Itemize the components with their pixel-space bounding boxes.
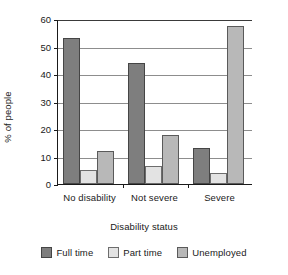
bar[interactable] [145,166,162,184]
bar-group [123,20,188,184]
y-axis-tick-0 [54,185,58,186]
legend-item[interactable]: Full time [41,247,93,258]
legend-label: Part time [123,247,162,258]
x-axis-separator-tick [123,184,124,188]
x-axis-separator-tick [188,184,189,188]
y-axis-tick-label-30: 30 [40,98,51,108]
bar-chart: % of people 0102030405060 No disabilityN… [0,0,288,275]
bar[interactable] [162,135,179,185]
y-axis-tick-label-60: 60 [40,15,51,25]
bar[interactable] [80,170,97,184]
legend-label: Full time [56,247,93,258]
y-axis-tick-label-40: 40 [40,70,51,80]
bar-group [58,20,123,184]
x-axis-title: Disability status [0,221,288,232]
plot-area: 0102030405060 [57,20,252,185]
y-axis-tick-label-20: 20 [40,125,51,135]
bar[interactable] [227,26,244,184]
y-axis-title: % of people [2,0,13,62]
bar[interactable] [193,148,210,184]
bar[interactable] [128,63,145,184]
bar[interactable] [210,173,227,184]
legend-item[interactable]: Unemployed [177,247,246,258]
legend-swatch-icon [108,247,119,258]
bar-group [188,20,253,184]
y-axis-title-text: % of people [2,62,13,172]
bar[interactable] [63,38,80,184]
legend-label: Unemployed [192,247,246,258]
y-axis-tick-label-50: 50 [40,43,51,53]
x-axis-tick-label: Severe [187,192,252,203]
legend-swatch-icon [177,247,188,258]
chart-legend: Full timePart timeUnemployed [0,247,288,258]
y-axis-tick-label-10: 10 [40,153,51,163]
y-axis-tick-label-0: 0 [46,180,51,190]
legend-item[interactable]: Part time [108,247,162,258]
x-axis-tick-label: Not severe [122,192,187,203]
bar[interactable] [97,151,114,184]
legend-swatch-icon [41,247,52,258]
x-axis-tick-label: No disability [57,192,122,203]
